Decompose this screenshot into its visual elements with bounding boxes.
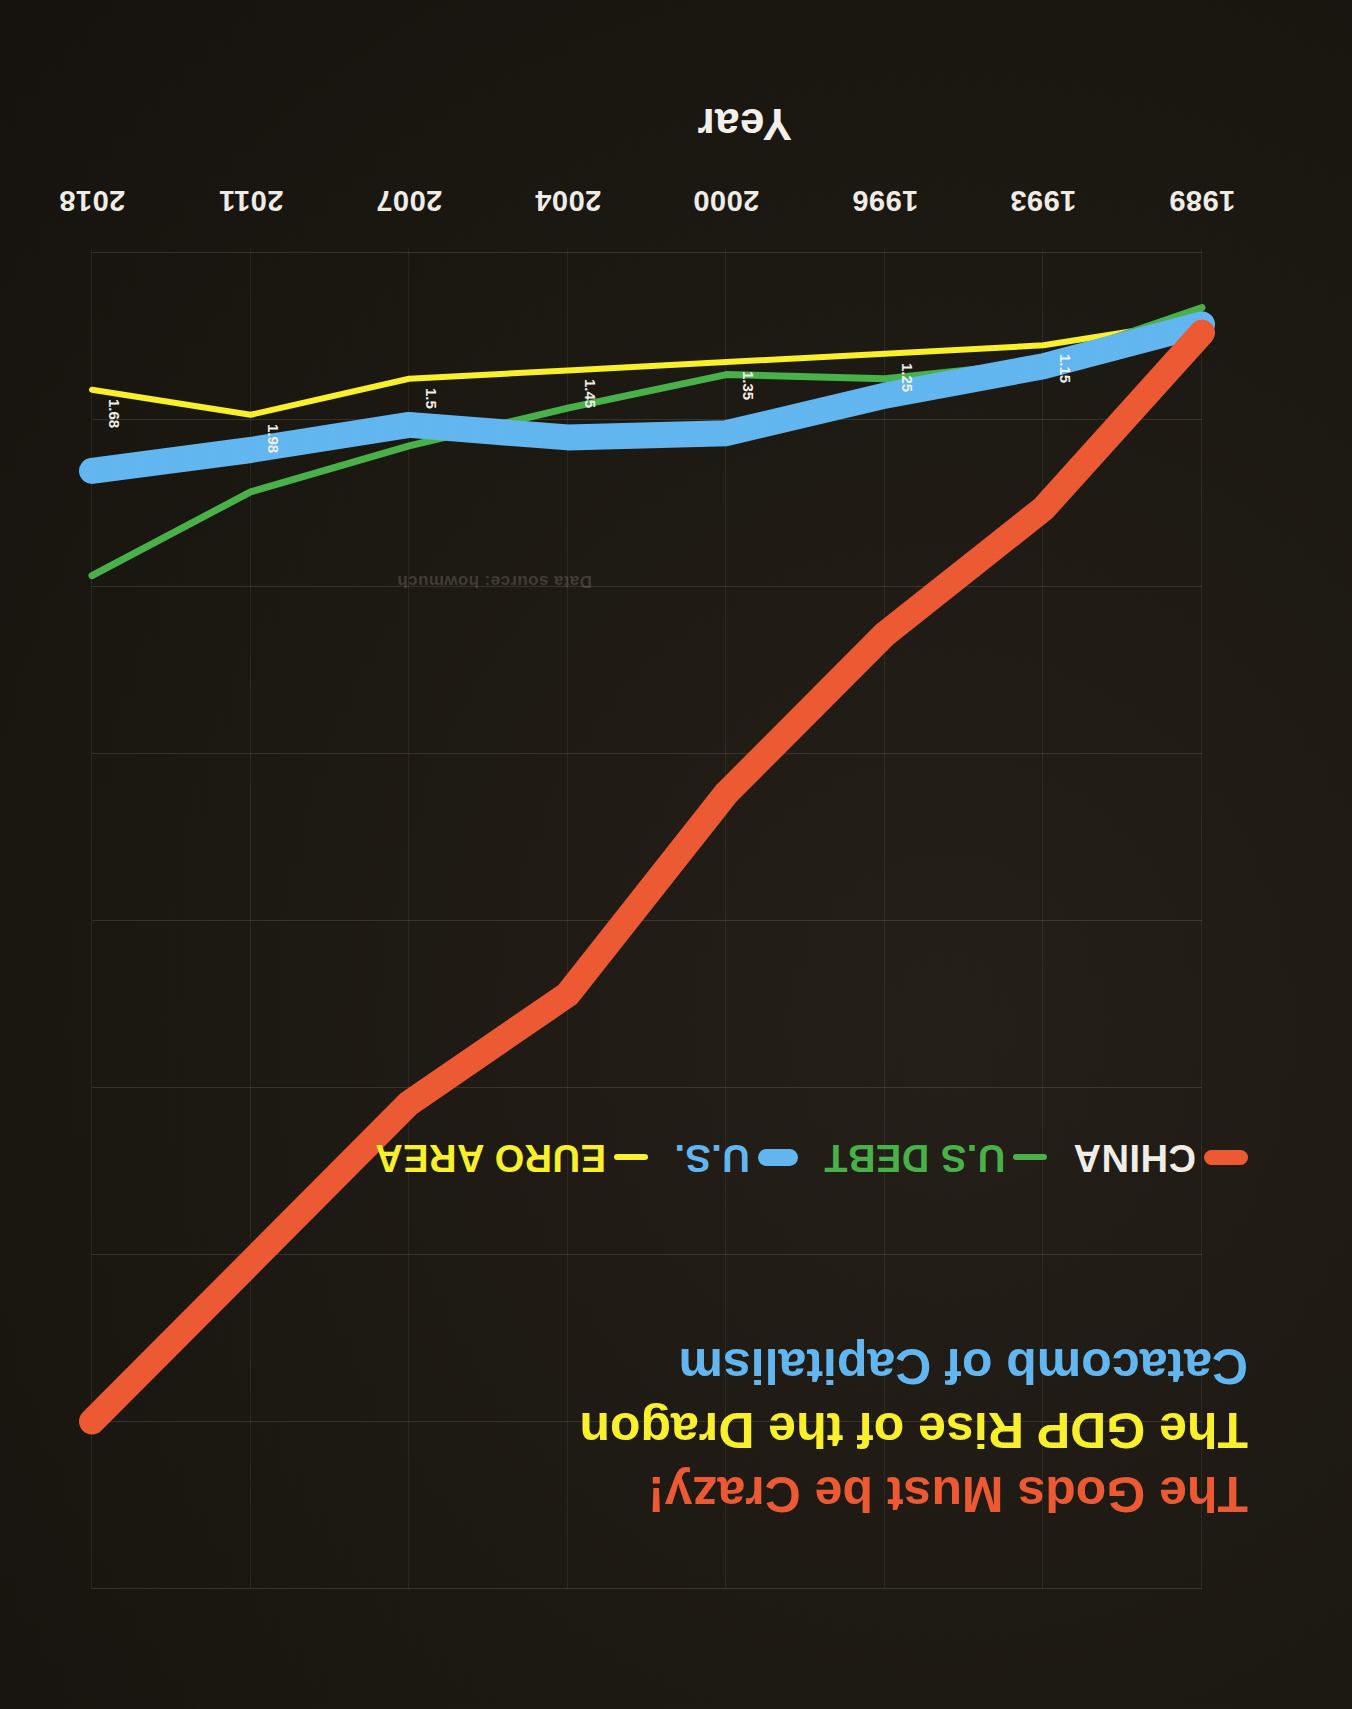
data-label-euro-area: 1.15 xyxy=(1057,354,1074,383)
x-tick-2007: 2007 xyxy=(349,184,469,217)
data-label-euro-area: 1.68 xyxy=(106,399,123,428)
chart-legend: CHINA U.S DEBT U.S. EURO AREA xyxy=(375,1136,1248,1179)
legend-swatch-china-icon xyxy=(1204,1150,1248,1165)
legend-item-us-debt[interactable]: U.S DEBT xyxy=(824,1136,1047,1179)
data-label-euro-area: 1.98 xyxy=(265,424,282,453)
title-block: The Gods Must be Crazy! The GDP Rise of … xyxy=(608,1337,1248,1523)
chart-title-line-1: The Gods Must be Crazy! xyxy=(608,1465,1248,1523)
legend-swatch-us-icon xyxy=(758,1149,798,1166)
rotated-slide-wrapper: 16 14 12 10 8 6 4 2 0 1989 1993 1996 200… xyxy=(0,0,1352,1709)
data-label-euro-area: 1.35 xyxy=(740,371,757,400)
legend-item-euro-area[interactable]: EURO AREA xyxy=(375,1136,648,1179)
legend-label-china: CHINA xyxy=(1073,1136,1196,1179)
x-tick-2011: 2011 xyxy=(191,184,311,217)
legend-swatch-euro-area-icon xyxy=(614,1155,648,1161)
data-label-euro-area: 1.45 xyxy=(582,379,599,408)
x-tick-1996: 1996 xyxy=(825,184,945,217)
legend-item-china[interactable]: CHINA xyxy=(1073,1136,1248,1179)
chart-slide: 16 14 12 10 8 6 4 2 0 1989 1993 1996 200… xyxy=(0,0,1352,1709)
x-axis-title: Year xyxy=(697,99,792,149)
legend-label-euro-area: EURO AREA xyxy=(375,1136,606,1179)
data-label-euro-area: 1.25 xyxy=(899,363,916,392)
data-label-euro-area: 1.5 xyxy=(423,388,440,409)
x-tick-1989: 1989 xyxy=(1142,184,1262,217)
legend-label-us-debt: U.S DEBT xyxy=(824,1136,1005,1179)
legend-item-us[interactable]: U.S. xyxy=(674,1136,798,1179)
x-tick-2004: 2004 xyxy=(508,184,628,217)
legend-label-us: U.S. xyxy=(674,1136,750,1179)
x-tick-2018: 2018 xyxy=(32,184,152,217)
x-tick-1993: 1993 xyxy=(983,184,1103,217)
x-tick-2000: 2000 xyxy=(666,184,786,217)
series-line-china xyxy=(92,333,1202,1422)
chart-title-line-2: The GDP Rise of the Dragon xyxy=(608,1401,1248,1459)
legend-swatch-us-debt-icon xyxy=(1013,1155,1047,1161)
data-source-watermark: Data source: howmuch xyxy=(397,571,592,591)
chart-title-line-3: Catacomb of Capitalism xyxy=(608,1337,1248,1395)
